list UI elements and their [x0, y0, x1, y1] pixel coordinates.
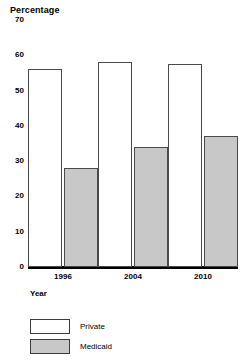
x-axis-title: Year [30, 289, 47, 298]
bar-medicaid-2010 [204, 136, 238, 267]
legend-item-label: Medicaid [80, 342, 112, 351]
y-axis-tick-label: 30 [2, 157, 24, 165]
gray-swatch [30, 339, 70, 354]
bar-private-1996 [28, 69, 62, 267]
y-axis-tick-label: 0 [2, 263, 24, 271]
chart-title: Percentage [10, 5, 60, 15]
x-axis-tick-label: 1996 [33, 272, 93, 281]
plot-area [28, 20, 238, 267]
bar-medicaid-1996 [64, 168, 98, 267]
y-axis-tick-label: 20 [2, 192, 24, 200]
bar-medicaid-2004 [134, 147, 168, 267]
y-axis-tick-label: 60 [2, 51, 24, 59]
bar-chart: Percentage 010203040506070 199620042010 … [0, 0, 249, 362]
x-axis-tick-label: 2004 [103, 272, 163, 281]
y-axis-tick-label: 10 [2, 228, 24, 236]
x-axis-tick-label: 2010 [173, 272, 233, 281]
y-axis-tick-label: 70 [2, 16, 24, 24]
white-swatch [30, 319, 70, 334]
bar-private-2010 [168, 64, 202, 267]
legend-item-label: Private [80, 322, 105, 331]
y-axis-tick-label: 40 [2, 122, 24, 130]
y-axis-tick-label: 50 [2, 87, 24, 95]
bar-private-2004 [98, 62, 132, 267]
